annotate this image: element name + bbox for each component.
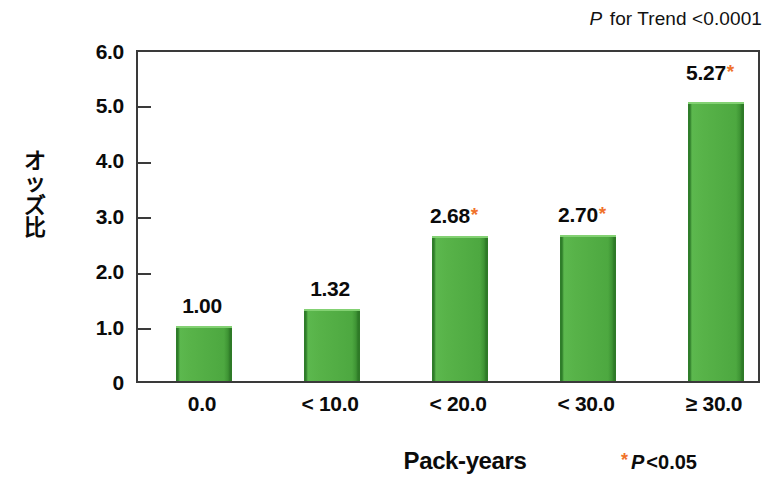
footnote-star-icon: * — [620, 450, 631, 470]
y-tick-mark-1 — [138, 328, 151, 330]
bar-4 — [688, 102, 744, 381]
p-for-trend-annotation: P for Trend <0.0001 — [0, 8, 762, 30]
footnote-text: <0.05 — [646, 451, 697, 473]
y-tick-mark-5 — [138, 106, 151, 108]
p-trend-text: for Trend <0.0001 — [604, 8, 762, 29]
bar-value-0: 1.00 — [182, 294, 222, 317]
x-tick-label-0: 0.0 — [188, 392, 216, 416]
y-tick-label-2: 2.0 — [34, 260, 124, 284]
x-tick-label-2: < 20.0 — [429, 392, 486, 416]
bar-0 — [176, 326, 232, 381]
y-tick-label-3: 3.0 — [34, 205, 124, 229]
bar-value-label-3: 2.70* — [558, 203, 606, 227]
bar-value-label-0: 1.00 — [182, 294, 222, 318]
y-tick-label-6: 6.0 — [34, 40, 124, 64]
y-tick-mark-4 — [138, 162, 151, 164]
y-tick-label-5: 5.0 — [34, 94, 124, 118]
footnote-italic-p: P — [631, 451, 646, 473]
x-tick-label-4: ≥ 30.0 — [686, 392, 742, 416]
bar-value-4: 5.27 — [686, 61, 726, 84]
y-tick-label-1: 1.0 — [34, 316, 124, 340]
bar-3 — [560, 235, 616, 381]
bar-value-3: 2.70 — [558, 203, 598, 226]
x-axis-title: Pack-years — [350, 447, 580, 475]
bar-value-2: 2.68 — [430, 204, 470, 227]
y-tick-label-4: 4.0 — [34, 149, 124, 173]
significance-footnote: *P<0.05 — [620, 450, 697, 474]
bar-value-label-4: 5.27* — [686, 61, 734, 85]
y-tick-mark-3 — [138, 217, 151, 219]
bar-value-label-2: 2.68* — [430, 204, 478, 228]
x-tick-label-3: < 30.0 — [557, 392, 614, 416]
bar-1 — [304, 309, 360, 381]
significance-star-icon-2: * — [470, 204, 478, 225]
bar-value-1: 1.32 — [310, 277, 350, 300]
y-axis-title-char-1: ッ — [18, 172, 52, 194]
bar-value-label-1: 1.32 — [310, 277, 350, 301]
significance-star-icon-3: * — [598, 203, 606, 224]
y-tick-label-0: 0 — [34, 371, 124, 395]
significance-star-icon-4: * — [726, 61, 734, 82]
y-tick-mark-2 — [138, 273, 151, 275]
odds-ratio-bar-chart: P for Trend <0.0001 オ ッ ズ 比 0 1.0 2.0 3.… — [0, 0, 784, 496]
x-tick-label-1: < 10.0 — [301, 392, 358, 416]
p-trend-italic-p: P — [590, 8, 605, 29]
bar-2 — [432, 236, 488, 381]
